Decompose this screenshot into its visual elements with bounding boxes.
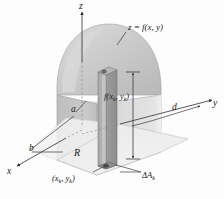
column-right-face (106, 70, 117, 169)
height-label: f(xk, yk) (104, 91, 129, 102)
leader-area-element (116, 165, 141, 172)
column-top-point (101, 70, 106, 73)
sample-point-close: ) (71, 173, 75, 183)
z-axis-label: z (78, 1, 83, 11)
sample-point-label: (xk, yk) (52, 173, 75, 184)
sample-point-dot (103, 164, 108, 168)
figure-container: z y x z = f(x, y) a b d R f(xk, yk) (xk,… (0, 0, 224, 199)
region-label: R (73, 147, 80, 158)
surface-equation-label: z = f(x, y) (127, 22, 163, 32)
height-label-mid: , y (116, 91, 124, 101)
side-d-label: d (172, 102, 177, 112)
area-element-sub: k (152, 175, 155, 181)
x-axis-label: x (6, 166, 12, 176)
column-front-highlight (102, 73, 106, 169)
side-a-label: a (71, 104, 76, 114)
height-label-fx: f(x (104, 91, 113, 101)
side-b-label: b (29, 143, 34, 153)
riemann-column (98, 67, 117, 169)
sample-point-mid: , y (61, 173, 69, 183)
area-element-label: ΔAk (141, 170, 155, 181)
height-label-end: ) (125, 91, 129, 101)
y-axis-label: y (212, 98, 218, 108)
area-element-delta-a: ΔA (141, 170, 153, 180)
double-integral-diagram: z y x z = f(x, y) a b d R f(xk, yk) (xk,… (0, 0, 224, 199)
